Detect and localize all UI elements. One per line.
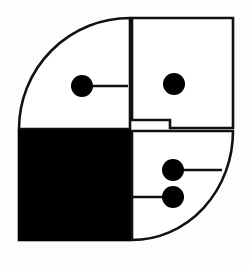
quadrant-shape-top-right-square bbox=[132, 18, 233, 128]
quadrant-shape-bottom-left-black-square bbox=[19, 131, 130, 240]
quadrant-bottom-left-black-square bbox=[19, 131, 130, 240]
dot-top-right-square-0 bbox=[163, 73, 185, 95]
geometric-figure-canvas bbox=[0, 0, 250, 266]
dot-bottom-right-quarter-disc-1 bbox=[162, 186, 184, 208]
figure-root: Abstract black-and-white diagram: a larg… bbox=[0, 0, 250, 266]
dot-top-left-quarter-disc-0 bbox=[71, 75, 93, 97]
dot-bottom-right-quarter-disc-0 bbox=[162, 159, 184, 181]
quadrant-top-right-square bbox=[132, 18, 233, 128]
